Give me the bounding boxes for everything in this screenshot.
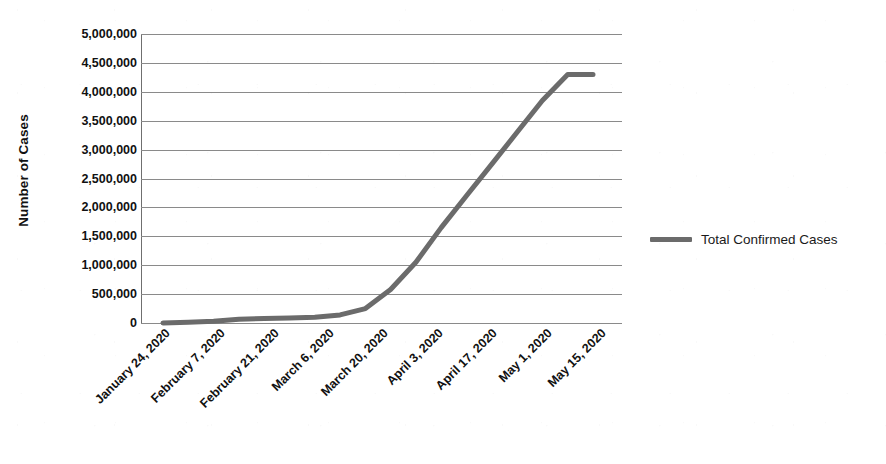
- y-axis-tick-label: 2,000,000: [40, 201, 137, 213]
- y-axis-tick-label: 4,500,000: [40, 57, 137, 69]
- series-line-total-confirmed-cases: [163, 75, 593, 323]
- y-axis-tick-label: 3,000,000: [40, 144, 137, 156]
- y-axis-tick-label: 2,500,000: [40, 173, 137, 185]
- y-axis-tick-label: 4,000,000: [40, 86, 137, 98]
- legend-label-total-confirmed-cases: Total Confirmed Cases: [701, 232, 838, 247]
- legend-swatch-total-confirmed-cases: [650, 237, 692, 242]
- y-axis-tick-label: 500,000: [40, 288, 137, 300]
- y-axis-tick-label: 5,000,000: [40, 28, 137, 40]
- y-axis-tick-label: 1,500,000: [40, 230, 137, 242]
- x-axis-tick-label: January 24, 2020: [0, 326, 173, 464]
- y-axis-title-label: Number of Cases: [16, 114, 31, 227]
- y-axis-tick-labels: 5,000,0004,500,0004,000,0003,500,0003,00…: [40, 0, 137, 340]
- x-axis-tick-label: February 7, 2020: [5, 326, 227, 464]
- y-axis-tick-label: 3,500,000: [40, 115, 137, 127]
- x-axis-tick-labels: January 24, 2020February 7, 2020February…: [0, 326, 700, 456]
- plot-area: [141, 34, 622, 323]
- series-layer: [141, 34, 622, 323]
- line-chart-figure: Number of Cases 5,000,0004,500,0004,000,…: [0, 0, 886, 464]
- y-axis-tick-label: 1,000,000: [40, 259, 137, 271]
- chart-legend: Total Confirmed Cases: [650, 232, 838, 247]
